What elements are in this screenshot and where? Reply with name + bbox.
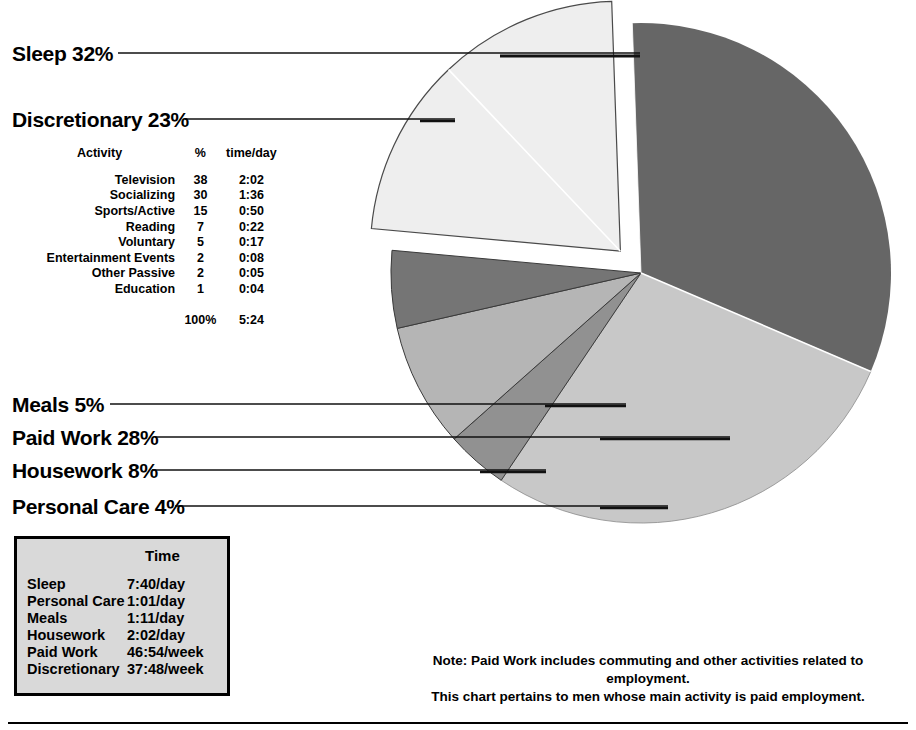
- legend-time: 2:02/day: [127, 626, 204, 643]
- table-row: Reading 7 0:22: [18, 219, 283, 235]
- legend-time: 1:01/day: [127, 592, 204, 609]
- cell-activity: Television: [18, 172, 181, 188]
- col-header-time: time/day: [220, 146, 283, 172]
- legend-name: Sleep: [27, 575, 127, 592]
- col-header-percent: %: [181, 146, 220, 172]
- cell-percent: 30: [181, 188, 220, 204]
- cell-activity: Other Passive: [18, 266, 181, 282]
- label-sleep: Sleep 32%: [12, 42, 113, 66]
- legend-row: Personal Care 1:01/day: [27, 592, 204, 609]
- legend-name: Discretionary: [27, 660, 127, 677]
- cell-total-percent: 100%: [181, 297, 220, 328]
- table-row: Television 38 2:02: [18, 172, 283, 188]
- table-row: Socializing 30 1:36: [18, 188, 283, 204]
- note-line-1: Paid Work includes commuting and other a…: [471, 653, 863, 686]
- time-legend-box: Time Sleep 7:40/day Personal Care 1:01/d…: [14, 536, 230, 696]
- cell-activity: Voluntary: [18, 234, 181, 250]
- label-paid-work: Paid Work 28%: [12, 426, 158, 450]
- chart-note: Note: Paid Work includes commuting and o…: [390, 652, 906, 707]
- cell-time: 0:22: [220, 219, 283, 235]
- cell-time: 2:02: [220, 172, 283, 188]
- cell-activity: Sports/Active: [18, 203, 181, 219]
- cell-activity: Reading: [18, 219, 181, 235]
- cell-activity: Education: [18, 281, 181, 297]
- legend-row: Paid Work 46:54/week: [27, 643, 204, 660]
- cell-time: 0:04: [220, 281, 283, 297]
- cell-time: 0:08: [220, 250, 283, 266]
- label-discretionary: Discretionary 23%: [12, 108, 189, 132]
- cell-total-time: 5:24: [220, 297, 283, 328]
- table-row: Entertainment Events 2 0:08: [18, 250, 283, 266]
- legend-time: 1:11/day: [127, 609, 204, 626]
- cell-percent: 2: [181, 266, 220, 282]
- cell-time: 0:05: [220, 266, 283, 282]
- table-row: Voluntary 5 0:17: [18, 234, 283, 250]
- legend-name: Meals: [27, 609, 127, 626]
- legend-name: Paid Work: [27, 643, 127, 660]
- legend-title: Time: [145, 547, 180, 564]
- legend-time: 7:40/day: [127, 575, 204, 592]
- label-housework: Housework 8%: [12, 459, 158, 483]
- note-line-2: This chart pertains to men whose main ac…: [431, 689, 865, 704]
- table-total-row: 100% 5:24: [18, 297, 283, 328]
- legend-name: Personal Care: [27, 592, 127, 609]
- table-row: Sports/Active 15 0:50: [18, 203, 283, 219]
- cell-time: 0:17: [220, 234, 283, 250]
- label-meals: Meals 5%: [12, 393, 104, 417]
- legend-name: Housework: [27, 626, 127, 643]
- note-label: Note:: [433, 653, 468, 668]
- legend-time: 37:48/week: [127, 660, 204, 677]
- table-row: Education 1 0:04: [18, 281, 283, 297]
- legend-time: 46:54/week: [127, 643, 204, 660]
- cell-time: 0:50: [220, 203, 283, 219]
- cell-total-activity: [18, 297, 181, 328]
- legend-row: Discretionary 37:48/week: [27, 660, 204, 677]
- pie-slice-discretionary[interactable]: [371, 1, 620, 251]
- bottom-rule: [8, 722, 908, 724]
- cell-percent: 5: [181, 234, 220, 250]
- activity-breakdown-table: Activity % time/day Television 38 2:02 S…: [18, 146, 308, 328]
- cell-percent: 1: [181, 281, 220, 297]
- cell-percent: 15: [181, 203, 220, 219]
- table-header-row: Activity % time/day: [18, 146, 283, 172]
- cell-time: 1:36: [220, 188, 283, 204]
- cell-percent: 7: [181, 219, 220, 235]
- chart-canvas: Sleep 32% Discretionary 23% Meals 5% Pai…: [0, 0, 916, 730]
- cell-activity: Socializing: [18, 188, 181, 204]
- table-row: Other Passive 2 0:05: [18, 266, 283, 282]
- cell-percent: 2: [181, 250, 220, 266]
- col-header-activity: Activity: [18, 146, 181, 172]
- cell-percent: 38: [181, 172, 220, 188]
- legend-row: Housework 2:02/day: [27, 626, 204, 643]
- cell-activity: Entertainment Events: [18, 250, 181, 266]
- legend-row: Sleep 7:40/day: [27, 575, 204, 592]
- label-personal-care: Personal Care 4%: [12, 495, 185, 519]
- legend-row: Meals 1:11/day: [27, 609, 204, 626]
